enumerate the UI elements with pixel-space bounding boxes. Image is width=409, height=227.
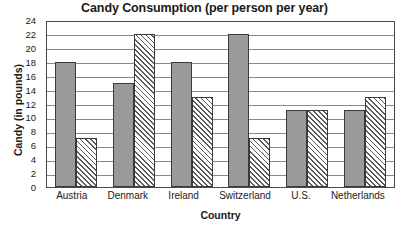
bar	[113, 83, 134, 187]
bars-layer	[47, 22, 394, 187]
y-axis-tick-label: 18	[25, 58, 36, 68]
x-axis-tick-labels: AustriaDenmarkIrelandSwitzerlandU.S.Neth…	[46, 190, 395, 206]
bar-group	[228, 22, 270, 187]
y-axis-tick-label: 24	[25, 16, 36, 26]
y-axis-tick-label: 4	[31, 155, 36, 165]
bar-group	[55, 22, 97, 187]
bar	[307, 110, 328, 187]
bar	[134, 34, 155, 187]
bar	[171, 62, 192, 187]
y-axis-tick-label: 0	[31, 183, 36, 193]
x-axis-tick-label: Denmark	[108, 190, 149, 201]
x-axis-tick-label: Austria	[56, 190, 87, 201]
bar-group	[171, 22, 213, 187]
x-axis-tick-label: Ireland	[168, 190, 199, 201]
y-axis-tick-label: 10	[25, 114, 36, 124]
chart-title: Candy Consumption (per person per year)	[0, 1, 409, 15]
x-axis-tick-label: Netherlands	[331, 190, 385, 201]
plot-area	[46, 21, 395, 188]
bar	[365, 97, 386, 187]
bar	[344, 110, 365, 187]
y-axis-tick-labels: 024681012141618202224	[0, 21, 42, 188]
y-axis-tick-label: 2	[31, 169, 36, 179]
y-axis-tick-label: 22	[25, 30, 36, 40]
bar	[228, 34, 249, 187]
bar-group	[344, 22, 386, 187]
bar	[76, 138, 97, 187]
bar	[286, 110, 307, 187]
x-axis-tick-label: U.S.	[291, 190, 310, 201]
bar-group	[286, 22, 328, 187]
x-axis-title: Country	[46, 209, 395, 221]
y-axis-tick-label: 16	[25, 72, 36, 82]
x-axis-tick-label: Switzerland	[219, 190, 271, 201]
y-axis-tick-label: 8	[31, 128, 36, 138]
bar	[249, 138, 270, 187]
y-axis-tick-label: 12	[25, 100, 36, 110]
bar-group	[113, 22, 155, 187]
y-axis-tick-label: 6	[31, 142, 36, 152]
y-axis-tick-label: 20	[25, 44, 36, 54]
bar	[55, 62, 76, 187]
bar	[192, 97, 213, 187]
y-axis-tick-label: 14	[25, 86, 36, 96]
bar-chart: Candy Consumption (per person per year) …	[0, 0, 409, 227]
